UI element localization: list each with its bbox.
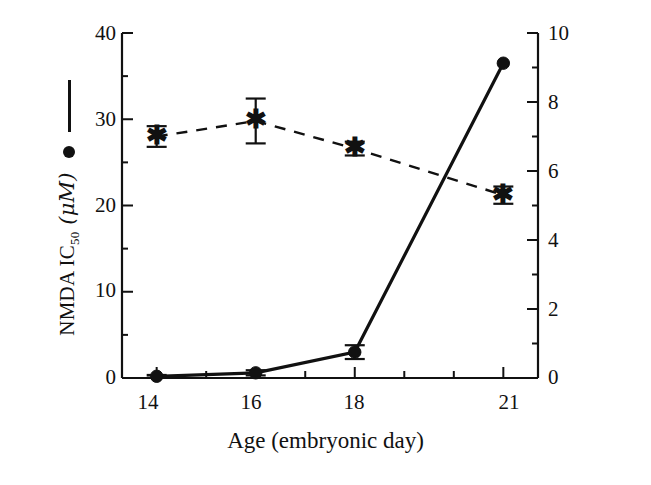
data-point-marker: ✱ [492, 180, 514, 209]
plot-area: ✱✱✱✱ [0, 0, 651, 485]
tick-marks [122, 33, 538, 378]
data-point-marker [150, 370, 162, 382]
data-point-marker: ✱ [344, 133, 366, 162]
data-point-marker [497, 57, 509, 69]
series-ka: ✱✱✱✱ [146, 99, 515, 209]
data-point-marker [250, 367, 262, 379]
data-point-marker: ✱ [146, 121, 168, 150]
series-nmda [147, 57, 510, 382]
data-series-layer: ✱✱✱✱ [146, 57, 515, 382]
data-point-marker: ✱ [245, 105, 267, 134]
figure-container: NMDA IC50(μM) KA IC50(μM) ✱ 40 30 20 10 … [0, 0, 651, 485]
data-point-marker [349, 346, 361, 358]
axis-lines [122, 33, 538, 378]
